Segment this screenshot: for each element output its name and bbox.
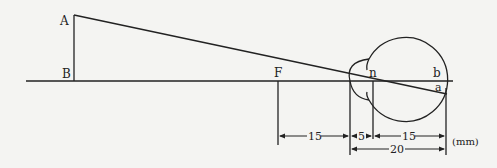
- dim-value-nodal-retina: 15: [402, 130, 416, 143]
- cornea-outline: [349, 59, 369, 100]
- label-retina-a: a: [435, 81, 442, 94]
- iris-lower: [367, 92, 369, 100]
- dim-value-cornea-retina: 20: [390, 143, 404, 156]
- dim-value-focal-cornea: 15: [308, 130, 322, 143]
- label-b-upper: B: [62, 67, 71, 81]
- reduced-eye-diagram: A B F n b a 15 5 15 20 (mm): [0, 0, 497, 168]
- label-focal-point: F: [274, 66, 282, 80]
- unit-label: (mm): [452, 136, 479, 147]
- label-nodal-point: n: [369, 66, 377, 80]
- label-a-upper: A: [59, 14, 69, 28]
- dim-value-cornea-nodal: 5: [358, 130, 365, 143]
- label-retina-b: b: [433, 66, 441, 80]
- ray-line-a-n-a: [74, 15, 447, 94]
